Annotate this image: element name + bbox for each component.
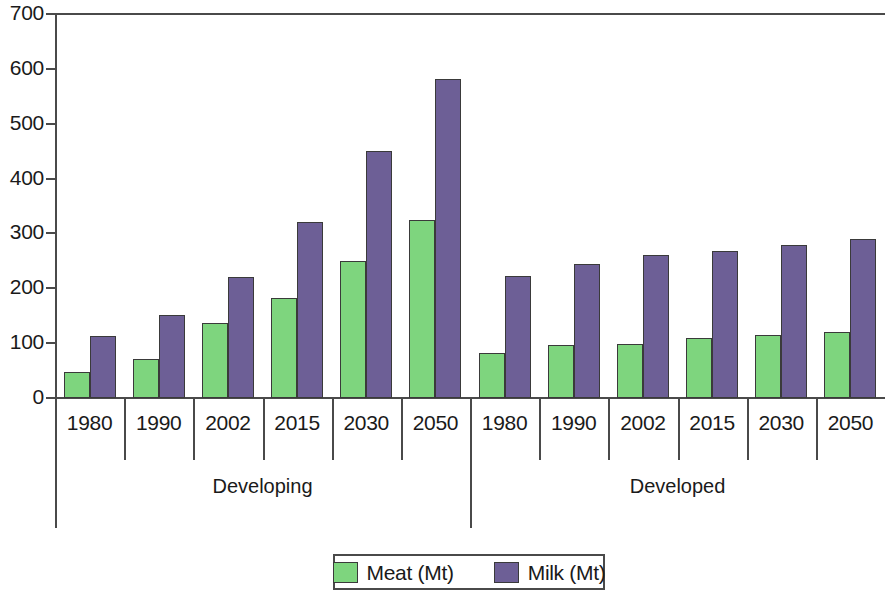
y-axis-tick-mark xyxy=(46,232,55,234)
category-separator xyxy=(124,398,126,460)
legend-entry: Meat (Mt) xyxy=(333,562,454,583)
x-axis-tick-label: 2050 xyxy=(401,412,470,433)
x-axis-tick-label: 2015 xyxy=(263,412,332,433)
y-axis-tick-mark xyxy=(46,342,55,344)
group-separator xyxy=(55,398,57,528)
category-separator xyxy=(539,398,541,460)
group-label-developed: Developed xyxy=(470,476,885,496)
bar-chart: 7006005004003002001000 19801990200220152… xyxy=(0,0,885,596)
category-separator xyxy=(816,398,818,460)
group-separator xyxy=(470,398,472,528)
y-axis-tick-mark xyxy=(46,123,55,125)
category-separator xyxy=(678,398,680,460)
x-axis-tick-label: 2050 xyxy=(816,412,885,433)
category-separator xyxy=(747,398,749,460)
category-separator xyxy=(401,398,403,460)
category-separator xyxy=(332,398,334,460)
category-separator xyxy=(263,398,265,460)
legend-label: Milk (Mt) xyxy=(528,562,606,583)
y-axis-tick-mark xyxy=(46,287,55,289)
legend-swatch-icon xyxy=(494,562,519,583)
x-axis-tick-label: 1990 xyxy=(124,412,193,433)
category-separator xyxy=(608,398,610,460)
x-axis-tick-label: 2002 xyxy=(608,412,677,433)
legend-swatch-icon xyxy=(333,562,358,583)
category-axis: 198019902002201520302050Developing198019… xyxy=(0,0,885,596)
x-axis-tick-label: 1980 xyxy=(55,412,124,433)
x-axis-tick-label: 1990 xyxy=(539,412,608,433)
legend: Meat (Mt)Milk (Mt) xyxy=(333,554,605,590)
y-axis-tick-mark xyxy=(46,13,55,15)
x-axis-tick-label: 2030 xyxy=(747,412,816,433)
x-axis-tick-label: 2030 xyxy=(332,412,401,433)
y-axis-tick-mark xyxy=(46,178,55,180)
group-label-developing: Developing xyxy=(55,476,470,496)
x-axis-tick-label: 2002 xyxy=(193,412,262,433)
x-axis-tick-label: 2015 xyxy=(678,412,747,433)
y-axis-tick-mark xyxy=(46,397,55,399)
x-axis-tick-label: 1980 xyxy=(470,412,539,433)
y-axis-tick-mark xyxy=(46,68,55,70)
legend-label: Meat (Mt) xyxy=(367,562,454,583)
legend-entry: Milk (Mt) xyxy=(494,562,606,583)
category-separator xyxy=(193,398,195,460)
